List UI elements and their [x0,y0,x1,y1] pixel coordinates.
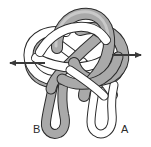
label-a: A [121,123,129,135]
knot-diagram-figure: B A [0,0,151,147]
knot-diagram-canvas: B A [0,0,151,147]
label-b: B [33,123,40,135]
